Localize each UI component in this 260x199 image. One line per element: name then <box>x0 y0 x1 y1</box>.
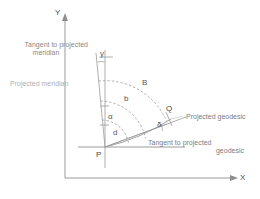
alpha-angle-label: α <box>108 112 113 121</box>
callout-tangent-geodesic-line2: geodesic <box>148 147 244 155</box>
figure-canvas: Y X P Q γ α δ B b d Tangent to projected… <box>0 0 260 199</box>
diagram-svg <box>0 0 260 199</box>
callout-projected-meridian: Projected meridian <box>10 80 68 88</box>
arc-b-label: b <box>124 94 128 103</box>
callout-tangent-to-projected-meridian: Tangent to projected meridian <box>4 41 88 58</box>
callout-tangent-meridian-line2: meridian <box>4 49 88 57</box>
y-axis-arrowhead <box>62 13 68 21</box>
x-axis-arrowhead <box>230 175 238 181</box>
arc-B-label: B <box>142 78 147 87</box>
y-axis-label: Y <box>55 8 60 17</box>
gamma-angle-label: γ <box>100 49 104 58</box>
tangent-to-projected-meridian-line <box>96 53 105 147</box>
point-q-label: Q <box>166 104 172 113</box>
callout-tangent-geodesic-line1: Tangent to projected <box>148 139 244 147</box>
x-axis-label: X <box>240 173 245 182</box>
point-p-label: P <box>96 150 101 159</box>
gamma-angle-arc <box>98 62 105 63</box>
delta-angle-label: δ <box>157 120 161 129</box>
callout-tangent-to-projected-geodesic: Tangent to projected geodesic <box>148 139 244 156</box>
chord-d-label: d <box>113 128 117 137</box>
callout-tangent-meridian-line1: Tangent to projected <box>4 41 88 49</box>
callout-projected-geodesic: Projected geodesic <box>186 113 246 121</box>
